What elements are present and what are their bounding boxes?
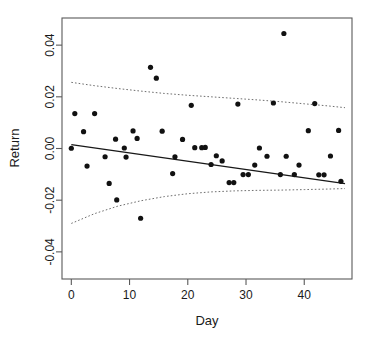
- data-point: [241, 172, 246, 177]
- data-point: [312, 101, 317, 106]
- data-point: [214, 153, 219, 158]
- x-tick-label: 10: [123, 288, 137, 302]
- upper-confidence-curve: [71, 82, 345, 107]
- data-point: [114, 197, 119, 202]
- data-point: [235, 101, 240, 106]
- lower-confidence-curve: [71, 189, 345, 224]
- data-point: [338, 179, 343, 184]
- data-point: [306, 128, 311, 133]
- plot-canvas: 0.040.020.00-0.02-0.04 010203040 Day Ret…: [0, 0, 367, 345]
- data-point: [252, 162, 257, 167]
- data-point: [84, 163, 89, 168]
- data-point: [328, 153, 333, 158]
- data-points: [69, 31, 344, 221]
- data-point: [135, 136, 140, 141]
- x-tick-label: 40: [298, 288, 312, 302]
- data-point: [231, 180, 236, 185]
- x-tick-label: 30: [239, 288, 253, 302]
- y-tick-label: 0.04: [43, 33, 57, 57]
- data-point: [316, 172, 321, 177]
- data-point: [81, 129, 86, 134]
- data-point: [130, 128, 135, 133]
- y-tick-label: -0.04: [43, 238, 57, 266]
- data-point: [123, 154, 128, 159]
- data-point: [72, 111, 77, 116]
- data-point: [264, 154, 269, 159]
- data-point: [102, 154, 107, 159]
- data-point: [321, 172, 326, 177]
- confidence-band-lower: [71, 189, 345, 224]
- data-point: [296, 162, 301, 167]
- data-point: [336, 128, 341, 133]
- data-point: [170, 171, 175, 176]
- data-point: [208, 162, 213, 167]
- data-point: [180, 137, 185, 142]
- x-tick-label: 0: [68, 288, 75, 302]
- data-point: [69, 146, 74, 151]
- y-tick-label: -0.02: [43, 186, 57, 214]
- y-axis-ticks: 0.040.020.00-0.02-0.04: [43, 33, 62, 265]
- regression-fit-line: [71, 145, 345, 184]
- fit-line-path: [71, 145, 345, 184]
- data-point: [227, 180, 232, 185]
- data-point: [148, 65, 153, 70]
- data-point: [122, 145, 127, 150]
- data-point: [192, 145, 197, 150]
- x-tick-label: 20: [181, 288, 195, 302]
- data-point: [284, 154, 289, 159]
- data-point: [113, 137, 118, 142]
- scatter-plot-figure: 0.040.020.00-0.02-0.04 010203040 Day Ret…: [0, 0, 367, 345]
- data-point: [203, 145, 208, 150]
- data-point: [107, 181, 112, 186]
- data-point: [92, 111, 97, 116]
- confidence-band-upper: [71, 82, 345, 107]
- data-point: [138, 216, 143, 221]
- data-point: [271, 100, 276, 105]
- data-point: [154, 76, 159, 81]
- y-tick-label: 0.00: [43, 136, 57, 160]
- data-point: [278, 172, 283, 177]
- y-axis-label: Return: [7, 128, 22, 167]
- x-axis-ticks: 010203040: [68, 279, 311, 302]
- data-point: [292, 172, 297, 177]
- data-point: [281, 31, 286, 36]
- data-point: [257, 145, 262, 150]
- x-axis-label: Day: [195, 313, 219, 328]
- data-point: [220, 158, 225, 163]
- data-point: [189, 103, 194, 108]
- data-point: [246, 172, 251, 177]
- y-tick-label: 0.02: [43, 85, 57, 109]
- data-point: [160, 129, 165, 134]
- data-point: [172, 154, 177, 159]
